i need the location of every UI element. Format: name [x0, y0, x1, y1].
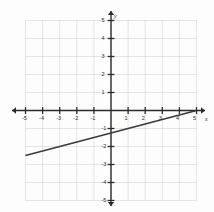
x-tick-label: 4 — [176, 116, 179, 122]
y-tick-label: 4 — [102, 36, 105, 42]
y-tick-label: 1 — [102, 90, 105, 96]
y-axis-name: y — [114, 13, 117, 19]
y-tick-label: -4 — [102, 180, 107, 186]
x-tick-label: -3 — [56, 116, 61, 122]
axes — [12, 11, 205, 206]
x-tick-label: 5 — [193, 116, 196, 122]
y-tick-label: 3 — [102, 54, 105, 60]
y-tick-label: -5 — [102, 198, 107, 204]
x-axis-name: x — [205, 116, 208, 122]
x-tick-label: -2 — [73, 116, 78, 122]
x-tick-label: 2 — [142, 116, 145, 122]
x-tick-label: -4 — [39, 116, 44, 122]
y-tick-label: 2 — [102, 72, 105, 78]
x-tick-label: -1 — [90, 116, 95, 122]
x-tick-label: -5 — [22, 116, 27, 122]
y-tick-label: -1 — [102, 126, 107, 132]
x-tick-label: 3 — [159, 116, 162, 122]
y-tick-label: -3 — [102, 162, 107, 168]
coordinate-plane-svg — [0, 0, 214, 212]
y-tick-label: -2 — [102, 144, 107, 150]
x-tick-label: 1 — [125, 116, 128, 122]
graph-figure: -5-4-3-2-112345 -5-4-3-2-112345 x y — [0, 0, 214, 212]
y-tick-label: 5 — [102, 18, 105, 24]
